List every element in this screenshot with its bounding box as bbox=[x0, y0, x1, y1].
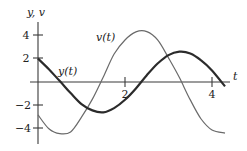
y-curve-label: y(t) bbox=[57, 65, 77, 78]
chart: 4 2 −2 −4 2 4 y, v t v(t) y(t) bbox=[0, 0, 247, 151]
t-axis-label: t bbox=[233, 70, 238, 83]
y-tick-label-4: 4 bbox=[23, 29, 30, 42]
y-axis-label: y, v bbox=[26, 6, 46, 19]
y-tick-label-2: 2 bbox=[23, 52, 30, 65]
y-tick-label-neg4: −4 bbox=[15, 122, 31, 135]
v-curve-label: v(t) bbox=[96, 31, 115, 44]
y-tick-label-neg2: −2 bbox=[15, 99, 31, 112]
t-tick-label-4: 4 bbox=[209, 88, 216, 101]
